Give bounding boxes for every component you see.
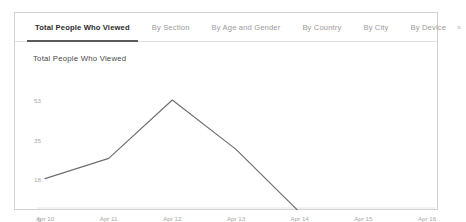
tab-by-age-and-gender[interactable]: By Age and Gender [201,13,292,41]
x-axis-tick-label: Apr 14 [291,215,309,222]
tab-label: By Country [302,23,341,32]
tab-label: By Section [152,23,190,32]
tab-label: Total People Who Viewed [35,23,130,32]
x-axis-tick-label: Apr 13 [227,215,245,222]
tab-by-city[interactable]: By City [352,13,399,41]
series-line-total-people-who-viewed [45,100,427,210]
tab-by-country[interactable]: By Country [291,13,352,41]
x-axis-tick-label: Apr 11 [100,215,118,222]
tab-overflow-icon[interactable]: » [457,13,466,41]
tab-by-device[interactable]: By Device [400,13,458,41]
tab-by-section[interactable]: By Section [141,13,201,41]
x-axis-tick-label: Apr 15 [354,215,372,222]
x-axis-tick-label: Apr 10 [36,215,54,222]
tab-label: By Age and Gender [212,23,281,32]
tab-bar: Total People Who Viewed By Section By Ag… [15,13,437,42]
analytics-panel: Total People Who Viewed By Section By Ag… [14,12,438,210]
tab-total-people-who-viewed[interactable]: Total People Who Viewed [24,13,141,41]
tab-label: By City [363,23,388,32]
tab-overflow-label: » [457,24,461,31]
line-chart-plot [15,42,437,210]
tab-label: By Device [411,23,447,32]
x-axis-tick-label: Apr 12 [163,215,181,222]
chart-container: Total People Who Viewed 5335180 Apr 10Ap… [15,42,437,210]
x-axis-tick-label: Apr 16 [418,215,436,222]
